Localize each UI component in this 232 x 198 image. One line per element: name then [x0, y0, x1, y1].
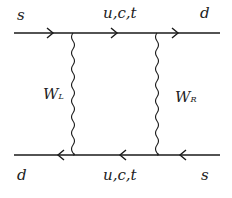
left-boson-label-sub: L: [58, 92, 63, 101]
bottom-left-quark-label: d: [17, 168, 27, 183]
left-boson-label: WL: [43, 87, 64, 102]
left-boson-wavy-line: [72, 33, 75, 155]
top-right-quark-label: d: [200, 6, 210, 21]
top-middle-quark-label: u,c,t: [103, 6, 137, 21]
bottom-right-quark-label: s: [201, 168, 209, 183]
left-boson-label-main: W: [43, 85, 58, 103]
bottom-middle-quark-label: u,c,t: [103, 168, 137, 183]
top-left-quark-label: s: [17, 8, 25, 23]
right-boson-label-sub: R: [190, 95, 196, 104]
right-boson-label-main: W: [175, 88, 190, 106]
right-boson-wavy-line: [156, 33, 159, 155]
right-boson-label: WR: [175, 90, 196, 105]
